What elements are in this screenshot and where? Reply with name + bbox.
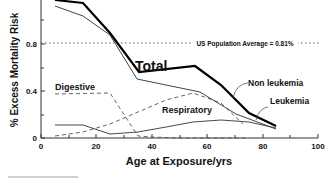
x-axis-label: Age at Exposure/yrs	[126, 155, 232, 167]
y-tick-0: 0	[33, 134, 38, 143]
label-non-leukemia: Non leukemia	[248, 78, 304, 88]
label-respiratory: Respiratory	[162, 105, 212, 115]
us-average-label: US Population Average = 0.81%	[196, 40, 293, 48]
x-tick-20: 20	[92, 142, 101, 151]
series-respiratory	[55, 93, 243, 136]
label-total: Total	[135, 58, 167, 74]
label-digestive: Digestive	[55, 82, 95, 92]
x-tick-100: 100	[311, 142, 325, 151]
caption-fragment	[8, 176, 78, 178]
x-ticks	[41, 134, 318, 138]
y-ticks	[41, 20, 45, 138]
line-chart: 0 0.4 0.8 0 20 40 60 80 100 Age at Expos…	[0, 0, 334, 178]
label-leukemia: Leukemia	[270, 96, 309, 106]
y-tick-0.8: 0.8	[26, 40, 38, 49]
x-tick-80: 80	[259, 142, 268, 151]
y-tick-0.4: 0.4	[26, 87, 38, 96]
x-tick-0: 0	[39, 142, 44, 151]
x-tick-40: 40	[148, 142, 157, 151]
series-leukemia	[55, 120, 276, 134]
x-tick-60: 60	[203, 142, 212, 151]
y-axis-label: % Excess Mortality Risk	[9, 12, 20, 127]
non-leukemia-leader	[233, 83, 248, 98]
